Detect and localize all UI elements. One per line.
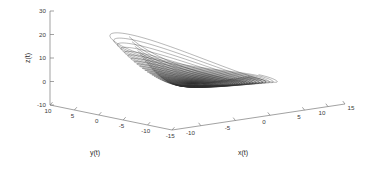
figure-canvas: 30 20 10 0 -10 10 5 0 -5 -10 -15 <box>0 0 365 172</box>
attractor-trajectory <box>110 33 277 87</box>
z-tick-label: 10 <box>39 54 46 61</box>
z-tick-label: 0 <box>43 78 47 85</box>
z-tick-label: 30 <box>39 7 46 14</box>
x-axis-title: x(t) <box>238 149 248 157</box>
y-tick-label: -10 <box>141 127 151 134</box>
y-tick-label: 5 <box>71 112 75 119</box>
x-tick-label: 0 <box>262 118 266 125</box>
chart-plot-area: 30 20 10 0 -10 10 5 0 -5 -10 -15 <box>0 0 365 172</box>
attractor-return-strands <box>129 37 266 88</box>
x-tick-label: -10 <box>186 129 196 136</box>
y-axis-title: y(t) <box>90 149 100 157</box>
axis-lines <box>50 11 345 130</box>
z-axis-ticks: 30 20 10 0 -10 <box>37 7 54 107</box>
y-tick-label: 10 <box>45 107 52 114</box>
x-tick-label: 10 <box>319 109 326 116</box>
x-tick-label: 5 <box>297 113 301 120</box>
z-axis-title: z(t) <box>24 53 32 63</box>
y-tick-label: -5 <box>119 122 125 129</box>
x-axis-line <box>172 104 345 130</box>
z-tick-label: 20 <box>39 31 46 38</box>
x-tick-label: -5 <box>225 124 231 131</box>
x-tick-label: 15 <box>348 104 355 111</box>
y-tick-label: 0 <box>95 117 99 124</box>
y-axis-line <box>50 105 172 130</box>
y-tick-label: -15 <box>166 132 176 139</box>
